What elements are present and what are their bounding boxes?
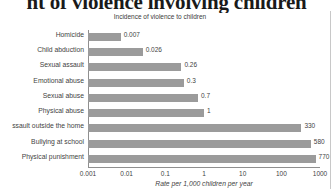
chart-figure: Incidence of violence to children Homici…	[0, 11, 331, 189]
bar	[88, 140, 311, 148]
category-label: Sexual abuse	[43, 92, 84, 99]
category-label: Physical punishment	[22, 153, 84, 160]
plot-area: Homicide0.007Child abduction0.026Sexual …	[88, 30, 320, 167]
bar-value-label: 0.7	[201, 92, 210, 99]
bar-value-label: 330	[304, 122, 315, 129]
bar-value-label: 0.3	[187, 77, 196, 84]
bar-row: Physical abuse1	[88, 106, 320, 121]
x-axis-tick-label: 1	[202, 170, 206, 177]
bar-row: Bullying at school580	[88, 137, 320, 152]
x-axis-tick-label: 0.01	[120, 170, 133, 177]
bar-row: Sexual abuse0.7	[88, 91, 320, 106]
category-label: ssault outside the home	[12, 122, 84, 129]
category-label: Bullying at school	[31, 138, 84, 145]
category-label: Emotional abuse	[33, 77, 84, 84]
chart-title: Incidence of violence to children	[0, 13, 320, 20]
bar-row: Child abduction0.026	[88, 45, 320, 60]
x-axis-title: Rate per 1,000 children per year	[88, 180, 320, 187]
bar-value-label: 580	[314, 138, 325, 145]
bar	[88, 79, 184, 87]
bar-value-label: 0.026	[146, 46, 162, 53]
bar-value-label: 1	[207, 107, 211, 114]
x-axis-line	[88, 167, 320, 168]
bar	[88, 48, 143, 56]
x-axis-tick-label: 1000	[313, 170, 327, 177]
x-axis-tick-label: 0.1	[161, 170, 170, 177]
bar	[88, 124, 301, 132]
bar	[88, 94, 198, 102]
x-axis-tick-label: 100	[276, 170, 287, 177]
bar-row: Sexual assault0.26	[88, 60, 320, 75]
bar	[88, 33, 121, 41]
bar-row: Physical punishment770	[88, 152, 320, 167]
category-label: Child abduction	[37, 46, 84, 53]
x-axis-tick-label: 10	[239, 170, 246, 177]
category-label: Physical abuse	[38, 107, 84, 114]
bar-value-label: 0.26	[184, 61, 197, 68]
bar	[88, 109, 204, 117]
category-label: Sexual assault	[40, 61, 84, 68]
bar-row: Emotional abuse0.3	[88, 76, 320, 91]
bar-row: ssault outside the home330	[88, 121, 320, 136]
bar-value-label: 770	[319, 153, 330, 160]
bar-row: Homicide0.007	[88, 30, 320, 45]
bar	[88, 155, 316, 163]
category-label: Homicide	[56, 31, 84, 38]
bar	[88, 63, 181, 71]
bar-value-label: 0.007	[124, 31, 140, 38]
x-axis-tick-label: 0.001	[80, 170, 96, 177]
